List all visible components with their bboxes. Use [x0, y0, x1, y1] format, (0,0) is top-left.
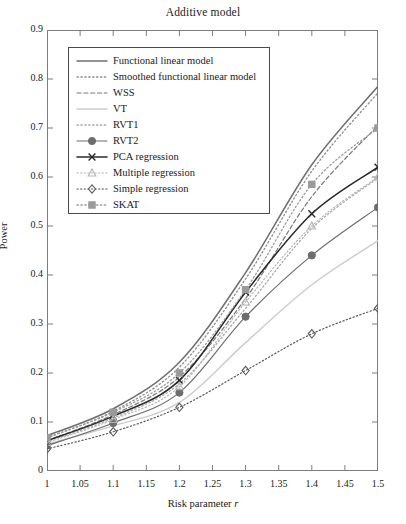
data-point-marker-square — [176, 370, 182, 376]
data-point-marker-circle-filled — [242, 313, 249, 320]
x-tick-label: 1.25 — [204, 478, 222, 489]
legend-item[interactable]: Multiple regression — [69, 165, 269, 181]
series-vt — [47, 241, 378, 444]
data-point-marker-circle-filled — [308, 252, 315, 259]
series-line — [47, 308, 378, 449]
chart-legend: Functional linear modelSmoothed function… — [68, 47, 270, 214]
legend-line-sample — [75, 70, 109, 84]
x-axis-label-variable: r — [234, 498, 238, 509]
data-point-marker-x — [308, 210, 315, 217]
x-tick-label: 1.5 — [372, 478, 385, 489]
legend-line-sample — [75, 54, 109, 68]
series-line — [47, 241, 378, 444]
legend-item[interactable]: SKAT — [69, 197, 269, 213]
legend-line-sample — [75, 166, 109, 180]
series-line — [47, 177, 378, 443]
x-tick-label: 1.45 — [336, 478, 354, 489]
data-point-marker-square — [110, 409, 116, 415]
chart-figure: Additive model 00.10.20.30.40.50.60.70.8… — [0, 0, 406, 524]
x-axis-label: Risk parameter r — [0, 498, 406, 509]
data-point-marker-square — [375, 125, 378, 131]
legend-label: RVT2 — [109, 134, 138, 148]
x-tick-label: 1.35 — [270, 478, 288, 489]
data-point-marker-circle-filled — [88, 137, 95, 144]
legend-line-sample — [75, 198, 109, 212]
legend-label: PCA regression — [109, 150, 179, 164]
legend-label: Functional linear model — [109, 54, 213, 68]
legend-item[interactable]: Smoothed functional linear model — [69, 69, 269, 85]
data-point-marker-square — [242, 287, 248, 293]
legend-label: Smoothed functional linear model — [109, 70, 256, 84]
data-point-marker-diamond — [242, 366, 249, 374]
legend-label: WSS — [109, 86, 135, 100]
x-tick-label: 1.05 — [71, 478, 89, 489]
data-point-marker-circle-filled — [374, 204, 378, 211]
legend-label: VT — [109, 102, 127, 116]
legend-line-sample — [75, 134, 109, 148]
legend-item[interactable]: VT — [69, 101, 269, 117]
x-tick-label: 1.2 — [173, 478, 186, 489]
x-tick-label: 1.4 — [306, 478, 319, 489]
legend-label: Simple regression — [109, 182, 189, 196]
legend-label: Multiple regression — [109, 166, 195, 180]
x-tick-label: 1.1 — [107, 478, 120, 489]
legend-line-sample — [75, 102, 109, 116]
legend-label: RVT1 — [109, 118, 138, 132]
y-axis-label: Power — [0, 223, 9, 250]
legend-item[interactable]: PCA regression — [69, 149, 269, 165]
data-point-marker-square — [47, 434, 50, 440]
legend-label: SKAT — [109, 198, 139, 212]
legend-item[interactable]: RVT2 — [69, 133, 269, 149]
data-point-marker-square — [89, 202, 95, 208]
legend-line-sample — [75, 150, 109, 164]
legend-line-sample — [75, 86, 109, 100]
x-tick-label: 1.15 — [138, 478, 156, 489]
series-rvt1 — [47, 178, 378, 442]
series-line — [47, 178, 378, 442]
x-tick-label: 1 — [45, 478, 50, 489]
legend-item[interactable]: WSS — [69, 85, 269, 101]
data-point-marker-diamond — [308, 330, 315, 338]
x-axis-label-text: Risk parameter — [168, 498, 234, 509]
data-point-marker-square — [309, 181, 315, 187]
legend-item[interactable]: Simple regression — [69, 181, 269, 197]
legend-line-sample — [75, 118, 109, 132]
x-tick-label: 1.3 — [239, 478, 252, 489]
legend-line-sample — [75, 182, 109, 196]
legend-item[interactable]: Functional linear model — [69, 53, 269, 69]
legend-item[interactable]: RVT1 — [69, 117, 269, 133]
